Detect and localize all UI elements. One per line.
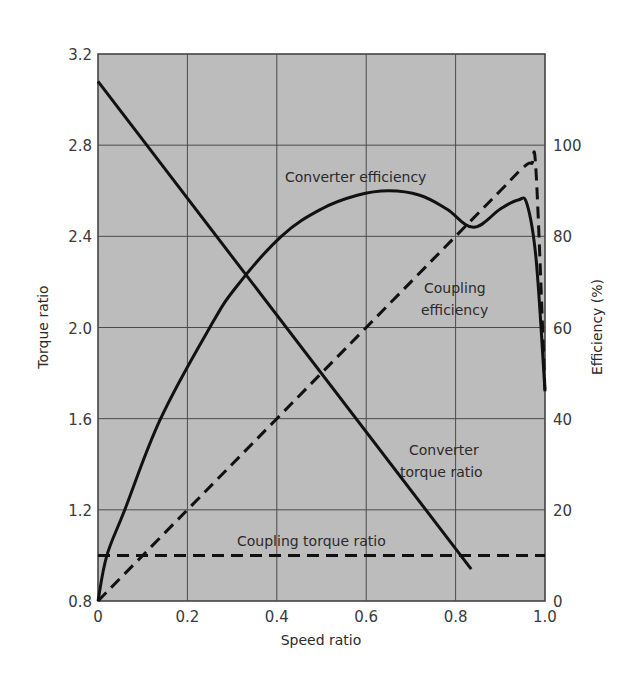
y-tick-label: 1.6	[68, 411, 92, 429]
y2-tick-label: 60	[553, 320, 572, 338]
annotation-converter-torque-line1: Converter	[409, 442, 479, 458]
annotation-converter-efficiency: Converter efficiency	[285, 169, 426, 185]
x-tick-label: 0.8	[444, 608, 468, 626]
y2-tick-label: 100	[553, 137, 582, 155]
y2-tick-label: 40	[553, 411, 572, 429]
y2-axis-title: Efficiency (%)	[589, 279, 605, 375]
annotation-converter-torque-line2: torque ratio	[400, 464, 483, 480]
y-axis-title: Torque ratio	[35, 285, 51, 369]
y-tick-label: 3.2	[68, 46, 92, 64]
y2-tick-label: 0	[553, 593, 563, 611]
y-tick-label: 0.8	[68, 593, 92, 611]
x-tick-label: 0.4	[265, 608, 289, 626]
y-tick-label: 1.2	[68, 502, 92, 520]
annotation-coupling-torque: Coupling torque ratio	[237, 533, 386, 549]
y2-tick-label: 80	[553, 228, 572, 246]
y2-tick-label: 20	[553, 502, 572, 520]
y-tick-label: 2.4	[68, 228, 92, 246]
x-tick-label: 0.2	[175, 608, 199, 626]
torque-converter-chart: 00.20.40.60.81.00.81.21.62.02.42.83.2020…	[0, 0, 637, 673]
annotation-coupling-efficiency-line2: efficiency	[421, 302, 488, 318]
x-tick-label: 0.6	[354, 608, 378, 626]
y-tick-label: 2.8	[68, 137, 92, 155]
x-tick-label: 0	[93, 608, 103, 626]
y-tick-label: 2.0	[68, 320, 92, 338]
annotation-coupling-efficiency-line1: Coupling	[424, 280, 486, 296]
x-axis-title: Speed ratio	[281, 632, 362, 648]
